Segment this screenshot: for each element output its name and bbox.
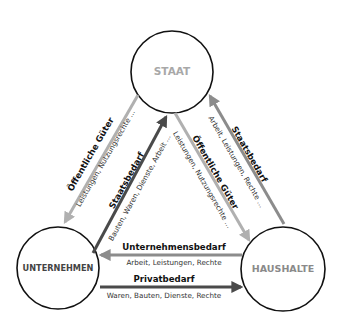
unternehmen-label: UNTERNEHMEN [23, 263, 94, 273]
flow-title-unternehmensbedarf: Unternehmensbedarf [122, 242, 226, 252]
flow-haushalte-to-unternehmen: Unternehmensbedarf Arbeit, Leistungen, R… [101, 242, 242, 267]
flow-subtitle-unternehmensbedarf: Arbeit, Leistungen, Rechte [126, 258, 222, 267]
node-haushalte: HAUSHALTE [241, 227, 325, 311]
node-staat: STAAT [131, 31, 213, 113]
flow-unternehmen-to-haushalte: Privatbedarf Waren, Bauten, Dienste, Rec… [100, 274, 241, 300]
flow-subtitle-privatbedarf: Waren, Bauten, Dienste, Rechte [107, 291, 222, 300]
node-unternehmen: UNTERNEHMEN [17, 227, 99, 309]
haushalte-label: HAUSHALTE [252, 263, 314, 274]
staat-label: STAAT [154, 65, 191, 77]
flow-title-privatbedarf: Privatbedarf [134, 274, 195, 284]
economic-cycle-diagram: STAAT UNTERNEHMEN HAUSHALTE Öffentliche … [0, 0, 343, 331]
